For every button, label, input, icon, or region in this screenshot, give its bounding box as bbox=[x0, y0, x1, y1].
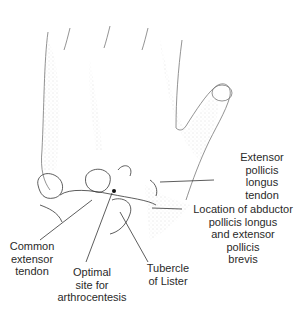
label-optimal-site: Optimal site for arthrocentesis bbox=[52, 266, 132, 304]
label-abductor-location: Location of abductor pollicis longus and… bbox=[183, 203, 303, 266]
label-tubercle-of-lister: Tubercle of Lister bbox=[138, 262, 198, 287]
label-extensor-pollicis-longus: Extensor pollicis longus tendon bbox=[222, 151, 302, 201]
wrist-bones bbox=[38, 166, 157, 234]
arthrocentesis-site-dot bbox=[112, 189, 116, 193]
